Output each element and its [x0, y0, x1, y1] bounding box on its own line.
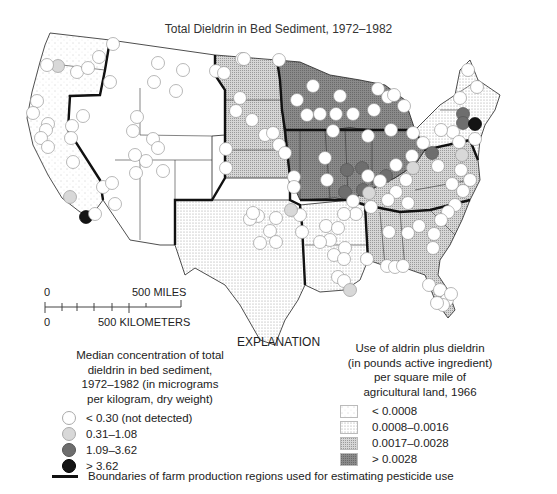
- sampling-site-marker: [453, 136, 466, 149]
- legend-label: < 0.0008: [372, 405, 417, 417]
- sampling-site-marker: [347, 195, 360, 208]
- sampling-site-marker: [471, 81, 484, 94]
- legend-label: 0.31–1.08: [86, 428, 137, 440]
- sampling-site-marker: [106, 177, 119, 190]
- header-line: dieldrin in bed sediment,: [40, 363, 260, 378]
- map-title: Total Dieldrin in Bed Sediment, 1972–198…: [0, 22, 557, 36]
- swatch-sparse-dots-icon: [340, 405, 358, 418]
- sampling-site-marker: [273, 54, 286, 67]
- sampling-site-marker: [362, 130, 375, 143]
- sampling-site-marker: [361, 253, 374, 266]
- sampling-site-marker: [77, 110, 90, 123]
- sampling-site-marker: [341, 164, 354, 177]
- sampling-site-marker: [107, 38, 120, 51]
- sampling-site-marker: [469, 133, 482, 146]
- sampling-site-marker: [270, 236, 283, 249]
- sampling-site-marker: [109, 198, 122, 211]
- sampling-site-marker: [104, 76, 117, 89]
- legend-item-use-medium: 0.0017–0.0028: [340, 435, 540, 451]
- sampling-site-marker: [152, 57, 165, 70]
- sampling-site-marker: [152, 142, 165, 155]
- sampling-site-marker: [435, 124, 448, 137]
- thick-line-icon: [52, 475, 78, 478]
- legend-label: < 0.30 (not detected): [86, 412, 192, 424]
- sampling-site-marker: [362, 170, 375, 183]
- sampling-site-marker: [332, 222, 345, 235]
- sampling-site-marker: [288, 181, 301, 194]
- sampling-site-marker: [131, 111, 144, 124]
- sampling-site-marker: [428, 228, 441, 241]
- sampling-site-marker: [457, 185, 470, 198]
- sampling-site-marker: [432, 160, 445, 173]
- sampling-site-marker: [347, 108, 360, 121]
- sampling-site-marker: [279, 147, 292, 160]
- header-line: per square mile of: [300, 370, 540, 385]
- sampling-site-marker: [344, 284, 357, 297]
- sampling-site-marker: [319, 152, 332, 165]
- sampling-site-marker: [427, 242, 440, 255]
- sampling-site-marker: [82, 62, 95, 75]
- swatch-dense-dots-icon: [340, 437, 358, 450]
- sampling-site-marker: [238, 53, 251, 66]
- swatch-dots-icon: [340, 421, 358, 434]
- sampling-site-marker: [338, 253, 351, 266]
- sampling-site-marker: [170, 85, 183, 98]
- sampling-site-marker: [218, 67, 231, 80]
- circle-dark-gray-icon: [62, 443, 76, 457]
- sampling-site-marker: [374, 175, 387, 188]
- use-legend: Use of aldrin plus dieldrin (in pounds a…: [300, 341, 540, 467]
- header-line: Use of aldrin plus dieldrin: [300, 341, 540, 356]
- sampling-site-marker: [457, 117, 470, 130]
- sampling-site-marker: [363, 187, 376, 200]
- sampling-site-marker: [407, 127, 420, 140]
- sampling-site-marker: [177, 64, 190, 77]
- concentration-legend-header: Median concentration of total dieldrin i…: [40, 348, 260, 406]
- sampling-site-marker: [435, 214, 448, 227]
- sampling-site-marker: [247, 207, 260, 220]
- sampling-site-marker: [327, 125, 340, 138]
- legend-item-use-low: 0.0008–0.0016: [340, 419, 540, 435]
- sampling-site-marker: [66, 120, 79, 133]
- circle-light-gray-icon: [62, 427, 76, 441]
- swatch-grid-icon: [340, 453, 358, 466]
- sampling-site-marker: [31, 95, 44, 108]
- sampling-site-marker: [407, 162, 420, 175]
- sampling-site-marker: [127, 125, 140, 138]
- legend-item-medium: 1.09–3.62: [62, 442, 260, 458]
- sampling-site-marker: [41, 59, 54, 72]
- sampling-site-marker: [455, 164, 468, 177]
- legend-label: 1.09–3.62: [86, 444, 137, 456]
- sampling-site-marker: [285, 204, 298, 217]
- sampling-site-marker: [426, 147, 439, 160]
- sampling-site-marker: [64, 191, 77, 204]
- sampling-site-marker: [469, 118, 482, 131]
- boundary-legend-label: Boundaries of farm production regions us…: [88, 470, 454, 482]
- sampling-site-marker: [446, 178, 459, 191]
- legend-label: 0.0017–0.0028: [372, 437, 449, 449]
- sampling-site-marker: [402, 197, 415, 210]
- sampling-site-marker: [314, 236, 327, 249]
- sampling-site-marker: [234, 92, 247, 105]
- sampling-site-marker: [157, 165, 170, 178]
- scale-bar: 0 500 MILES 0 500 KILOMETERS: [44, 286, 204, 336]
- sampling-site-marker: [230, 105, 243, 118]
- legend-item-use-high: > 0.0028: [340, 451, 540, 467]
- sampling-site-marker: [89, 208, 102, 221]
- legend-label: > 0.0028: [372, 453, 417, 465]
- sampling-site-marker: [296, 226, 309, 239]
- sampling-site-marker: [406, 150, 419, 163]
- sampling-site-marker: [291, 94, 304, 107]
- scale-ticks: [44, 300, 194, 314]
- sampling-site-marker: [338, 208, 351, 221]
- sampling-site-marker: [334, 90, 347, 103]
- sampling-site-marker: [456, 149, 469, 162]
- sampling-site-marker: [314, 108, 327, 121]
- sampling-site-marker: [445, 288, 458, 301]
- sampling-site-marker: [246, 114, 259, 127]
- sampling-site-marker: [462, 64, 475, 77]
- sampling-site-marker: [385, 124, 398, 137]
- sampling-site-marker: [365, 201, 378, 214]
- sampling-site-marker: [320, 220, 333, 233]
- sampling-site-marker: [67, 156, 80, 169]
- sampling-site-marker: [400, 174, 413, 187]
